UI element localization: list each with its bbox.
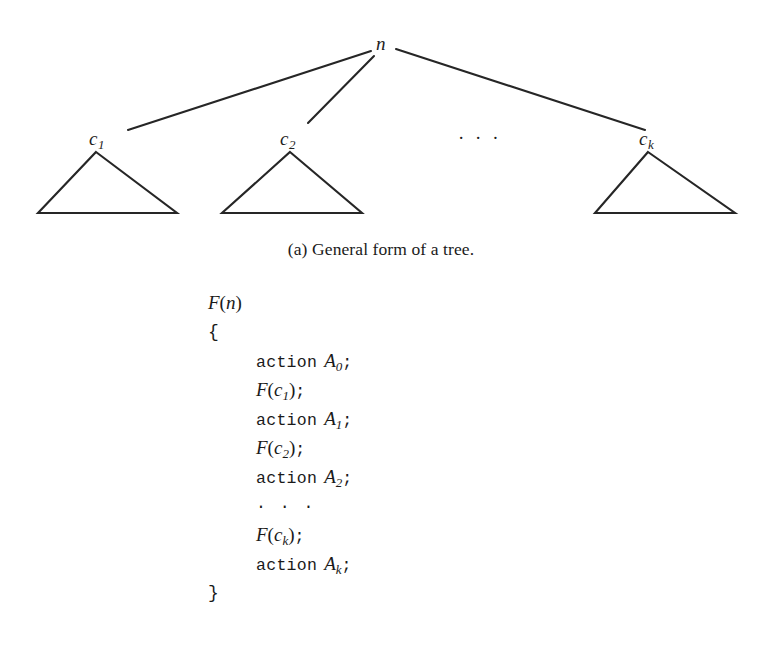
pseudocode-block: F(n){actionA0;F(c1);actionA1;F(c2);actio… — [208, 288, 352, 607]
code-line: } — [208, 578, 352, 607]
code-token-sub: 0 — [336, 359, 343, 374]
code-token-dots: · · · — [256, 497, 316, 516]
tree-ellipsis: · · · — [458, 128, 501, 147]
code-token-sub: 2 — [336, 475, 343, 490]
code-token-mathit: A — [324, 553, 336, 574]
code-token-kw: action — [256, 469, 317, 488]
subtree-triangle-c2 — [222, 152, 362, 213]
tree-edge-root-to-c2 — [308, 56, 374, 123]
code-line: actionA0; — [208, 346, 352, 375]
code-token-mathit: F — [256, 379, 268, 400]
code-line: actionA1; — [208, 404, 352, 433]
code-line: F(ck); — [208, 520, 352, 549]
code-token-sub: k — [282, 533, 288, 548]
tree-figure: n c1 c2 ck · · · — [0, 0, 762, 228]
code-line: F(c2); — [208, 433, 352, 462]
tree-edge-root-to-ck — [396, 49, 645, 130]
code-line: F(n) — [208, 288, 352, 317]
code-token-sub: 2 — [282, 446, 289, 461]
code-token-mathit: F — [208, 292, 220, 313]
code-line: F(c1); — [208, 375, 352, 404]
code-token-semi: ; — [342, 469, 352, 488]
code-token-mathit: n — [226, 292, 236, 313]
code-token-semi: ; — [342, 353, 352, 372]
figure-caption: (a) General form of a tree. — [0, 239, 762, 260]
code-token-semi: ; — [295, 440, 305, 459]
subtree-triangle-ck — [595, 152, 735, 213]
code-token-mathit: A — [324, 408, 336, 429]
code-line: · · · — [208, 491, 352, 520]
tree-node-label-ck: ck — [639, 129, 653, 148]
code-token-kw: action — [256, 353, 317, 372]
code-token-mathit: F — [256, 524, 268, 545]
code-line: actionAk; — [208, 549, 352, 578]
code-token-mathit: A — [324, 350, 336, 371]
code-token-sub: k — [336, 562, 342, 577]
code-line: { — [208, 317, 352, 346]
code-token-sub: 1 — [336, 417, 343, 432]
code-token-mathrm: ) — [235, 292, 241, 313]
subscript: 1 — [98, 137, 105, 152]
tree-edge-root-to-c1 — [128, 51, 371, 130]
code-token-mathit: A — [324, 466, 336, 487]
code-token-mathit: F — [256, 437, 268, 458]
code-token-brace: } — [208, 583, 219, 603]
subtree-triangle-c1 — [38, 152, 177, 213]
code-token-brace: { — [208, 322, 219, 342]
code-token-semi: ; — [342, 556, 352, 575]
tree-node-label-c1: c1 — [89, 129, 104, 148]
code-token-sub: 1 — [282, 388, 289, 403]
tree-node-label-root: n — [376, 34, 386, 53]
code-line: actionA2; — [208, 462, 352, 491]
subscript: k — [648, 137, 654, 152]
code-token-kw: action — [256, 556, 317, 575]
code-token-semi: ; — [342, 411, 352, 430]
subscript: 2 — [289, 137, 296, 152]
tree-node-label-c2: c2 — [280, 129, 295, 148]
code-token-kw: action — [256, 411, 317, 430]
code-token-semi: ; — [294, 527, 304, 546]
code-token-semi: ; — [295, 382, 305, 401]
